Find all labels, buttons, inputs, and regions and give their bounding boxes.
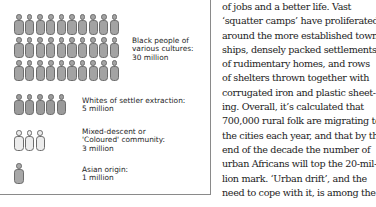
pictogram-black-population [14, 14, 120, 83]
pictogram-row [14, 14, 120, 36]
person-icon [14, 60, 25, 82]
person-icon [67, 37, 78, 59]
label-value: 1 million [82, 174, 128, 182]
pictogram-white-population [14, 94, 67, 117]
label-value: 5 million [82, 105, 185, 113]
article-line: ‘squatter camps’ have proliferated [222, 14, 376, 28]
article-line: ing. Overall, it’s calculated that [222, 100, 376, 114]
population-pictogram-panel: Black people of various cultures: 30 mil… [0, 0, 211, 195]
person-icon [109, 37, 120, 59]
pictogram-row [14, 130, 46, 152]
person-icon [56, 14, 67, 36]
pictogram-row [14, 163, 25, 185]
article-line: around the more established town- [222, 29, 376, 43]
person-icon [67, 60, 78, 82]
article-text-column: of jobs and a better life. Vast ‘squatte… [222, 0, 376, 200]
person-icon [99, 14, 110, 36]
label-value: 3 million [82, 145, 165, 153]
person-icon [35, 37, 46, 59]
person-icon [67, 14, 78, 36]
person-icon [78, 60, 89, 82]
article-line: of rudimentary homes, and rows [222, 57, 376, 71]
label-value: 30 million [132, 54, 194, 62]
person-icon [78, 14, 89, 36]
pictogram-coloured-population [14, 130, 46, 153]
person-icon [14, 163, 25, 185]
person-icon [35, 94, 46, 116]
article-line: need to cope with it, is among the [222, 186, 376, 200]
pictogram-row [14, 94, 67, 116]
article-line: the cities each year, and that by the [222, 129, 376, 143]
person-icon [14, 37, 25, 59]
person-icon [25, 37, 36, 59]
person-icon [35, 130, 46, 152]
article-line: of jobs and a better life. Vast [222, 0, 376, 14]
person-icon [14, 14, 25, 36]
label-white-population: Whites of settler extraction: 5 million [82, 97, 185, 114]
person-icon [56, 94, 67, 116]
person-icon [46, 60, 57, 82]
person-icon [25, 94, 36, 116]
person-icon [46, 37, 57, 59]
person-icon [99, 60, 110, 82]
person-icon [78, 37, 89, 59]
person-icon [35, 14, 46, 36]
person-icon [14, 94, 25, 116]
person-icon [88, 14, 99, 36]
pictogram-asian-population [14, 163, 25, 186]
article-line: of shelters thrown together with [222, 71, 376, 85]
person-icon [35, 60, 46, 82]
person-icon [14, 130, 25, 152]
person-icon [99, 37, 110, 59]
person-icon [88, 37, 99, 59]
person-icon [56, 37, 67, 59]
person-icon [109, 60, 120, 82]
person-icon [46, 94, 57, 116]
article-line: end of the decade the number of [222, 143, 376, 157]
person-icon [25, 60, 36, 82]
pictogram-row [14, 60, 120, 82]
person-icon [88, 60, 99, 82]
pictogram-row [14, 37, 120, 59]
label-black-population: Black people of various cultures: 30 mil… [132, 37, 194, 62]
article-line: 700,000 rural folk are migrating to [222, 114, 376, 128]
person-icon [56, 60, 67, 82]
article-line: corrugated iron and plastic sheet- [222, 86, 376, 100]
article-line: urban Africans will top the 20-mil- [222, 157, 376, 171]
article-line: lion mark. ‘Urban drift’, and the [222, 172, 376, 186]
person-icon [46, 14, 57, 36]
article-line: ships, densely packed settlements [222, 43, 376, 57]
label-asian-population: Asian origin: 1 million [82, 166, 128, 183]
person-icon [109, 14, 120, 36]
label-coloured-population: Mixed-descent or 'Coloured' community: 3… [82, 128, 165, 153]
person-icon [25, 130, 36, 152]
person-icon [25, 14, 36, 36]
